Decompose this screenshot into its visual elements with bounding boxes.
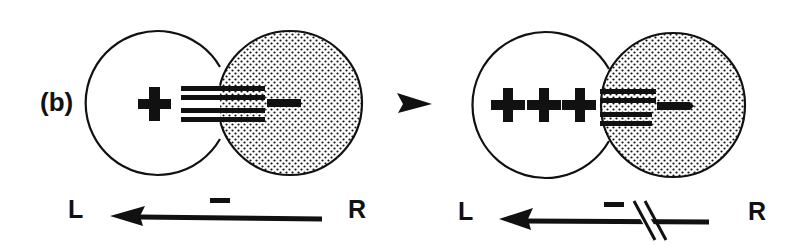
arrow-left-icon: [110, 206, 145, 226]
transition-arrow-icon: [397, 93, 432, 113]
arrow-left-icon: [499, 208, 533, 230]
axis-label-right: R: [748, 197, 766, 225]
axis-label-left: L: [68, 195, 83, 223]
field-minus-sign: [604, 202, 624, 207]
axis-label-right: R: [348, 195, 366, 223]
field-arrow-shaft: [525, 221, 709, 222]
field-minus-sign: [210, 198, 230, 203]
field-arrow-shaft: [140, 217, 322, 219]
right-diagram: L R: [458, 32, 766, 240]
left-diagram: L R: [68, 31, 366, 226]
panel-label: (b): [40, 87, 73, 117]
minus-charge-icon: [267, 99, 301, 107]
axis-label-left: L: [458, 197, 473, 225]
diagram-canvas: (b) L R: [0, 0, 805, 249]
minus-charge-icon: [657, 102, 694, 110]
